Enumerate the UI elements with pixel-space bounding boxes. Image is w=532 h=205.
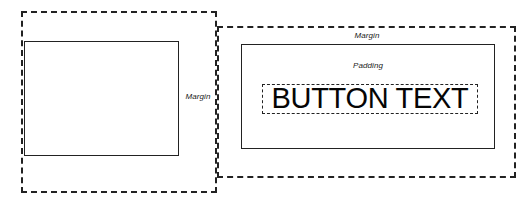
box-model-diagram: Margin Margin Padding BUTTON TEXT	[0, 0, 532, 205]
right-margin-label: Margin	[241, 31, 493, 41]
left-content-box	[24, 41, 179, 156]
left-margin-label: Margin	[179, 92, 217, 102]
button-text-label: BUTTON TEXT	[263, 83, 477, 113]
right-padding-label: Padding	[241, 61, 495, 71]
